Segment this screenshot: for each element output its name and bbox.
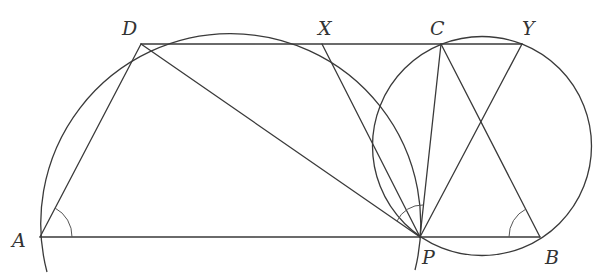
label-c: C [430, 17, 445, 39]
circle-dxp-arc [41, 34, 421, 272]
segment-dp [141, 44, 420, 237]
segment-cb [441, 44, 540, 237]
angle-mark-a [55, 208, 72, 237]
angle-mark-b [509, 209, 526, 237]
geometry-diagram: D X C Y A P B [0, 0, 597, 280]
label-b: B [544, 246, 559, 268]
label-x: X [316, 17, 333, 39]
circle-cypb [373, 37, 592, 256]
segment-xp [322, 44, 420, 237]
label-p: P [421, 246, 436, 268]
label-a: A [10, 229, 26, 251]
label-y: Y [522, 17, 537, 39]
label-d: D [121, 17, 137, 39]
segment-cp [420, 44, 441, 237]
segment-yp [420, 44, 522, 237]
